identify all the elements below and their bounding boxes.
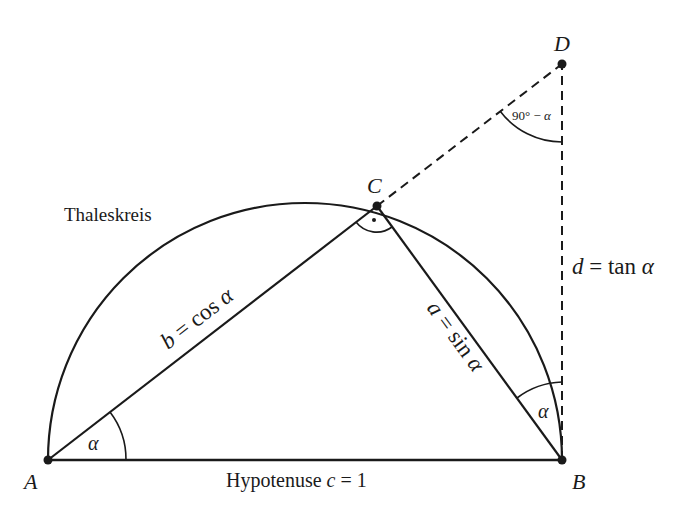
- angle-b-label: α: [538, 400, 549, 422]
- point-a: [44, 456, 53, 465]
- thaleskreis-label: Thaleskreis: [64, 204, 152, 225]
- label-d: D: [553, 31, 570, 56]
- right-angle-arc-c: [356, 222, 392, 232]
- label-c: C: [367, 173, 382, 198]
- hypotenuse-label: Hypotenuse c = 1: [226, 469, 367, 492]
- dashed-line-cd: [377, 64, 562, 206]
- angle-arc-a: [110, 412, 126, 460]
- thales-diagram: A B C D Thaleskreis Hypotenuse c = 1 b =…: [0, 0, 691, 519]
- point-d: [558, 60, 567, 69]
- point-b: [558, 456, 567, 465]
- side-b-label: b = cos α: [156, 282, 239, 354]
- label-a: A: [22, 469, 38, 494]
- angle-a-label: α: [88, 432, 99, 454]
- side-a-label: a = sin α: [422, 296, 490, 377]
- side-d-label: d = tan α: [572, 254, 655, 279]
- label-b: B: [572, 469, 585, 494]
- right-angle-dot: [372, 218, 376, 222]
- point-c: [373, 202, 382, 211]
- angle-arc-b: [517, 382, 562, 398]
- side-b-line: [48, 206, 377, 460]
- thales-circle-arc: [48, 203, 562, 460]
- angle-d-label: 90° − α: [512, 108, 552, 123]
